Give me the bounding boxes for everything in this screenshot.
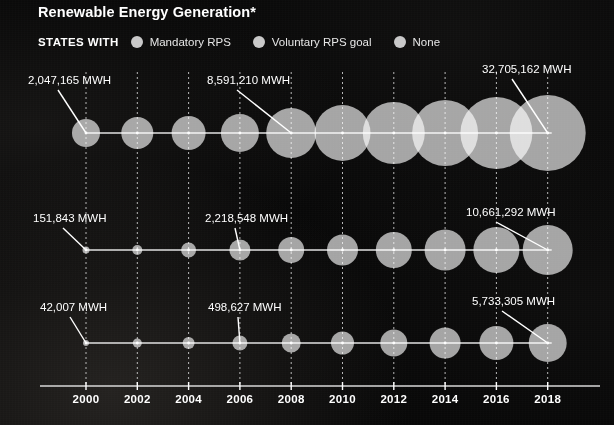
bubble-center-dot	[444, 132, 447, 135]
x-axis-label-2000: 2000	[73, 393, 100, 405]
bubble-center-dot	[444, 342, 447, 345]
chart-canvas: Renewable Energy Generation* STATES WITH…	[0, 0, 614, 425]
bubble-center-dot	[136, 132, 139, 135]
bubble-center-dot	[341, 132, 344, 135]
bubble-center-dot	[495, 342, 498, 345]
value-annotation: 5,733,305 MWH	[472, 295, 555, 307]
bubble-plot: 2,047,165 MWH8,591,210 MWH32,705,162 MWH…	[0, 0, 614, 425]
bubble-center-dot	[392, 249, 395, 252]
value-annotation: 10,661,292 MWH	[466, 206, 556, 218]
bubble-center-dot	[341, 249, 344, 252]
bubble-center-dot	[444, 249, 447, 252]
x-axis-label-2004: 2004	[175, 393, 202, 405]
bubble-center-dot	[136, 342, 139, 345]
bubble-center-dot	[187, 132, 190, 135]
bubble-center-dot	[290, 249, 293, 252]
x-axis-label-2006: 2006	[227, 393, 254, 405]
x-axis-label-2016: 2016	[483, 393, 510, 405]
value-annotation: 2,047,165 MWH	[28, 74, 111, 86]
x-axis-label-2002: 2002	[124, 393, 151, 405]
value-annotation: 2,218,548 MWH	[205, 212, 288, 224]
value-annotation: 151,843 MWH	[33, 212, 107, 224]
leader-line	[58, 90, 86, 133]
bubble-center-dot	[392, 132, 395, 135]
value-annotation: 32,705,162 MWH	[482, 63, 572, 75]
x-axis-label-2018: 2018	[534, 393, 561, 405]
x-axis-label-2008: 2008	[278, 393, 305, 405]
bubble-center-dot	[136, 249, 139, 252]
bubble-center-dot	[187, 249, 190, 252]
leader-line	[70, 317, 86, 343]
bubble-center-dot	[495, 132, 498, 135]
bubble-center-dot	[187, 342, 190, 345]
value-annotation: 8,591,210 MWH	[207, 74, 290, 86]
bubble-center-dot	[495, 249, 498, 252]
x-axis-label-2010: 2010	[329, 393, 356, 405]
value-annotation: 498,627 MWH	[208, 301, 282, 313]
bubble-center-dot	[290, 342, 293, 345]
leader-line	[63, 228, 86, 250]
x-axis-label-2014: 2014	[432, 393, 459, 405]
bubble-center-dot	[341, 342, 344, 345]
value-annotation: 42,007 MWH	[40, 301, 107, 313]
x-axis-label-2012: 2012	[380, 393, 407, 405]
bubble-center-dot	[392, 342, 395, 345]
bubble-center-dot	[239, 132, 242, 135]
